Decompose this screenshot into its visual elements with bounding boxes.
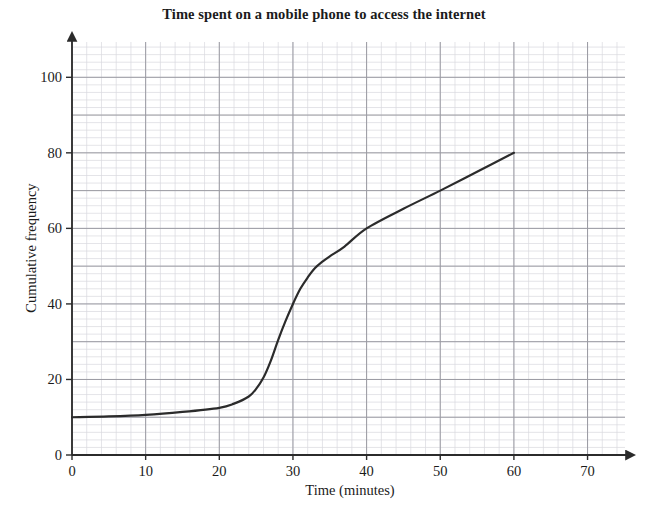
chart-canvas: 010203040506070 020406080100 Time (minut… bbox=[0, 0, 648, 516]
y-axis-title: Cumulative frequency bbox=[23, 183, 39, 313]
y-tick-labels: 020406080100 bbox=[40, 69, 62, 463]
y-tick-label: 0 bbox=[55, 447, 62, 463]
grid-minor bbox=[72, 42, 625, 455]
x-tick-label: 60 bbox=[507, 463, 522, 479]
x-tick-label: 20 bbox=[212, 463, 227, 479]
y-tick-label: 40 bbox=[48, 296, 63, 312]
y-tick-label: 20 bbox=[48, 371, 63, 387]
cumulative-frequency-chart: Time spent on a mobile phone to access t… bbox=[0, 0, 648, 516]
x-axis-title: Time (minutes) bbox=[305, 482, 394, 499]
x-tick-labels: 010203040506070 bbox=[68, 463, 594, 479]
x-tick-label: 0 bbox=[68, 463, 75, 479]
grid-major bbox=[72, 42, 625, 455]
x-tick-label: 10 bbox=[138, 463, 153, 479]
x-tick-label: 30 bbox=[286, 463, 301, 479]
x-tick-label: 70 bbox=[580, 463, 595, 479]
x-tick-label: 50 bbox=[433, 463, 448, 479]
axis-lines bbox=[72, 40, 627, 455]
x-tick-label: 40 bbox=[359, 463, 374, 479]
y-tick-label: 60 bbox=[48, 220, 63, 236]
tick-marks bbox=[66, 77, 588, 460]
y-tick-label: 80 bbox=[48, 145, 63, 161]
y-tick-label: 100 bbox=[40, 69, 62, 85]
